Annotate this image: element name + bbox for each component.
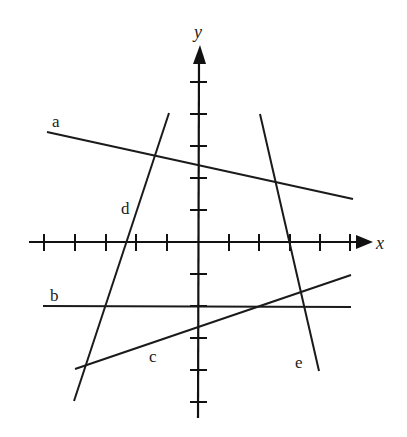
line-c: c	[75, 275, 351, 369]
x-axis-arrow-icon	[356, 235, 373, 249]
x-axis: x	[29, 233, 384, 253]
line-a-label: a	[52, 112, 60, 131]
line-b: b	[43, 286, 351, 307]
x-axis-label: x	[375, 233, 384, 253]
y-axis-arrow-icon	[193, 45, 206, 64]
line-a: a	[47, 112, 353, 199]
line-d-label: d	[121, 199, 130, 218]
y-axis: y	[190, 22, 207, 418]
y-axis-label: y	[192, 22, 202, 42]
line-c-label: c	[149, 347, 157, 366]
line-e-label: e	[295, 353, 303, 372]
coordinate-plane-diagram: x y a b c d	[0, 0, 407, 437]
line-b-label: b	[50, 286, 59, 305]
